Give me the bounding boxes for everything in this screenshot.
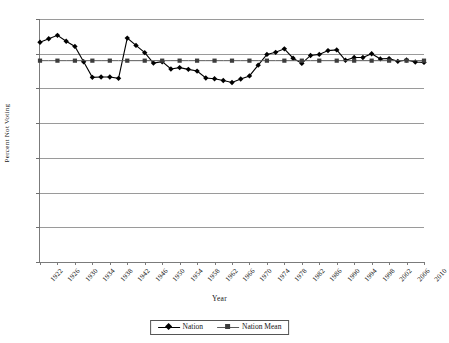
data-point-marker [38,59,42,63]
data-point-marker [107,74,112,79]
legend-marker [225,324,230,329]
x-axis-title: Year [0,294,439,303]
data-point-marker [352,59,356,63]
x-axis-tick-label: 1958 [206,267,222,283]
legend-entry: Nation [158,323,203,331]
data-point-marker [195,59,199,63]
data-point-marker [98,74,103,79]
x-axis-tick-label: 1966 [241,267,257,283]
x-axis-tick-label: 1990 [346,267,362,283]
x-axis-tick-label: 1930 [84,267,100,283]
data-point-marker [90,75,95,80]
data-point-marker [37,40,42,45]
data-point-marker [178,59,182,63]
x-axis-tick-label: 1974 [276,267,292,283]
x-axis-tick-mark [354,262,355,265]
data-point-marker [335,59,339,63]
data-point-marker [229,80,234,85]
x-axis-tick-mark [389,262,390,265]
data-point-marker [395,59,400,64]
data-point-marker [212,76,217,81]
chart-legend: NationNation Mean [150,320,290,335]
x-axis-tick-mark [40,262,41,265]
x-axis-tick-label: 1942 [136,267,152,283]
data-point-marker [230,59,234,63]
x-axis-tick-mark [284,262,285,265]
legend-label: Nation Mean [242,323,281,331]
x-axis-tick-label: 1950 [171,267,187,283]
x-axis-tick-label: 1926 [66,267,82,283]
data-point-marker [72,44,77,49]
diamond-marker-icon [165,323,172,330]
x-axis-tick-label: 1994 [363,267,379,283]
data-point-marker [81,59,86,64]
x-axis-tick-mark [424,262,425,265]
x-axis-tick-mark [75,262,76,265]
legend-swatch [217,323,239,331]
data-point-marker [404,59,408,63]
series-plot [40,19,424,262]
plot-area: 010203040506070 192219261930193419381942… [39,19,424,263]
data-point-marker [55,59,59,63]
x-axis-tick-mark [267,262,268,265]
data-point-marker [325,48,330,53]
x-axis-tick-mark [319,262,320,265]
x-axis-tick-label: 1998 [381,267,397,283]
x-axis-tick-mark [372,262,373,265]
data-point-marker [370,59,374,63]
x-axis-tick-mark [127,262,128,265]
data-point-marker [221,78,226,83]
x-axis-tick-label: 1978 [293,267,309,283]
data-point-marker [247,59,251,63]
legend-marker [166,324,171,329]
x-axis-tick-mark [337,262,338,265]
x-axis-tick-label: 1970 [258,267,274,283]
data-point-marker [212,59,216,63]
data-point-marker [238,76,243,81]
data-point-marker [186,67,191,72]
x-axis-tick-mark [197,262,198,265]
data-point-marker [143,59,147,63]
data-point-marker [177,65,182,70]
x-axis-tick-label: 1934 [101,267,117,283]
data-point-marker [265,59,269,63]
x-axis-tick-label: 1922 [49,267,65,283]
data-point-marker [317,59,321,63]
x-axis-tick-label: 1938 [119,267,135,283]
x-axis-tick-label: 1962 [223,267,239,283]
y-axis-title-text: Percent Not Voting [3,83,11,183]
x-axis-tick-label: 1946 [154,267,170,283]
data-point-marker [125,59,129,63]
data-point-marker [116,76,121,81]
x-axis-tick-label: 1982 [311,267,327,283]
x-axis-tick-mark [302,262,303,265]
series-nation-mean [38,59,426,63]
x-axis-tick-mark [215,262,216,265]
square-marker-icon [225,324,230,329]
x-axis-tick-mark [232,262,233,265]
x-axis-tick-label: 2010 [433,267,449,283]
data-point-marker [369,51,374,56]
data-point-marker [160,59,164,63]
x-axis-tick-mark [110,262,111,265]
x-axis-tick-label: 2002 [398,267,414,283]
x-axis-tick-mark [145,262,146,265]
data-point-marker [387,59,391,63]
data-point-marker [422,59,426,63]
data-point-marker [282,59,286,63]
data-point-marker [360,55,365,60]
legend-label: Nation [183,323,203,331]
x-axis-tick-mark [57,262,58,265]
data-point-marker [73,59,77,63]
data-point-marker [273,50,278,55]
x-axis-tick-mark [162,262,163,265]
x-axis-tick-mark [180,262,181,265]
x-axis-tick-mark [249,262,250,265]
legend-swatch [158,323,180,331]
x-axis-tick-mark [407,262,408,265]
legend-entry: Nation Mean [217,323,281,331]
x-axis-tick-mark [92,262,93,265]
x-axis-tick-label: 1986 [328,267,344,283]
data-point-marker [90,59,94,63]
